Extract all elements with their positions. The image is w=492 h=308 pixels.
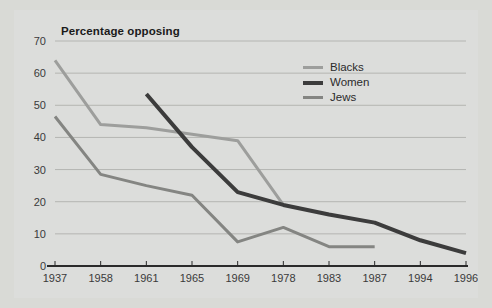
svg-text:1965: 1965 bbox=[180, 272, 204, 284]
svg-text:1994: 1994 bbox=[408, 272, 432, 284]
gridlines-group bbox=[55, 41, 466, 234]
svg-text:1969: 1969 bbox=[225, 272, 249, 284]
svg-text:0: 0 bbox=[40, 260, 46, 272]
data-series-group bbox=[55, 60, 466, 253]
x-axis-tick-labels: 1937195819611965196919781983198719941996 bbox=[43, 272, 478, 284]
legend-item-women: Women bbox=[303, 75, 369, 90]
legend-item-jews: Jews bbox=[303, 90, 369, 105]
svg-text:30: 30 bbox=[34, 164, 46, 176]
legend-label-jews: Jews bbox=[330, 90, 356, 105]
svg-text:1937: 1937 bbox=[43, 272, 67, 284]
svg-text:1983: 1983 bbox=[317, 272, 341, 284]
legend-swatch-jews bbox=[303, 96, 323, 99]
svg-text:20: 20 bbox=[34, 196, 46, 208]
svg-text:1978: 1978 bbox=[271, 272, 295, 284]
chart-figure: Percentage opposing 010203040506070 1937… bbox=[0, 0, 492, 308]
plot-area: Percentage opposing 010203040506070 1937… bbox=[14, 10, 478, 298]
x-axis-group bbox=[47, 261, 468, 266]
svg-text:10: 10 bbox=[34, 228, 46, 240]
svg-text:70: 70 bbox=[34, 35, 46, 47]
svg-text:1987: 1987 bbox=[362, 272, 386, 284]
chart-legend: Blacks Women Jews bbox=[303, 60, 369, 105]
line-chart-svg: 010203040506070 193719581961196519691978… bbox=[14, 10, 478, 298]
svg-text:1961: 1961 bbox=[134, 272, 158, 284]
legend-item-blacks: Blacks bbox=[303, 60, 369, 75]
y-axis-tick-labels: 010203040506070 bbox=[34, 35, 46, 272]
legend-swatch-blacks bbox=[303, 66, 323, 69]
svg-text:40: 40 bbox=[34, 131, 46, 143]
legend-swatch-women bbox=[303, 81, 323, 85]
svg-text:60: 60 bbox=[34, 67, 46, 79]
svg-text:1958: 1958 bbox=[88, 272, 112, 284]
svg-text:50: 50 bbox=[34, 99, 46, 111]
legend-label-women: Women bbox=[330, 75, 369, 90]
svg-text:1996: 1996 bbox=[454, 272, 478, 284]
legend-label-blacks: Blacks bbox=[330, 60, 364, 75]
